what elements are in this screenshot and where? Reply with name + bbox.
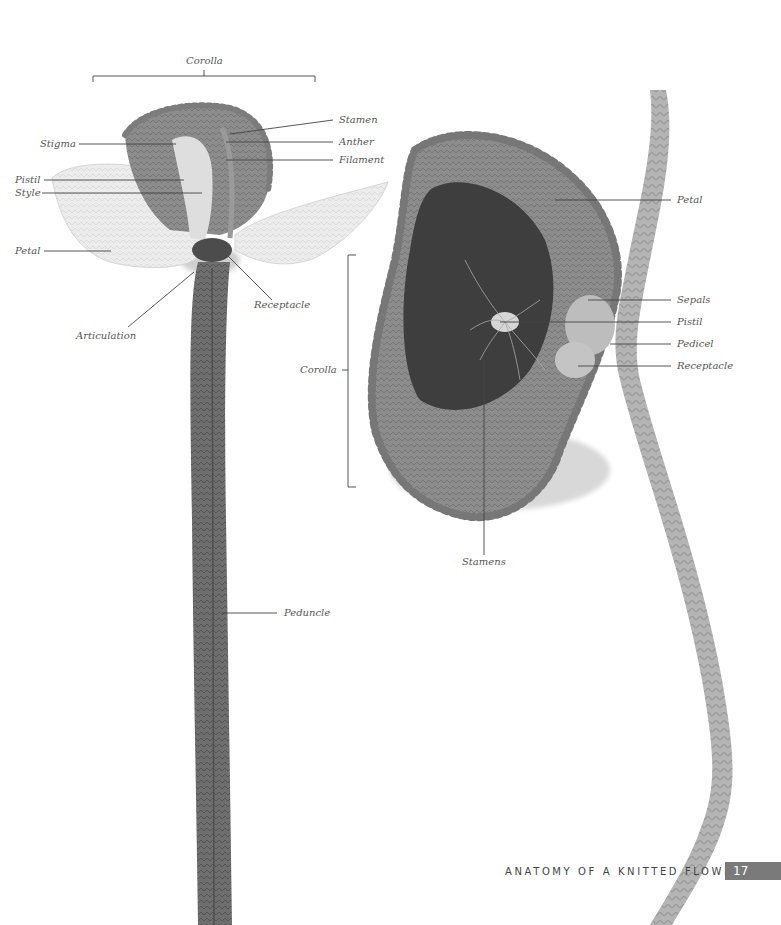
pistil-label: Pistil [15, 174, 40, 186]
stigma-label: Stigma [40, 138, 76, 150]
right-corolla-label: Corolla [300, 364, 337, 376]
right-pistil-label: Pistil [677, 316, 702, 328]
left-receptacle-label: Receptacle [254, 299, 310, 311]
articulation-label: Articulation [76, 330, 136, 342]
right-flower-drawing [372, 90, 733, 925]
style-label: Style [15, 187, 41, 199]
left-flower-drawing [52, 105, 388, 925]
knitted-flower-anatomy-page: Corolla Stamen Anther Filament Stigma Pi… [0, 0, 781, 925]
anther-label: Anther [339, 136, 374, 148]
right-petal-label: Petal [677, 194, 702, 206]
pedicel-label: Pedicel [677, 338, 714, 350]
flower-illustration [0, 0, 781, 925]
right-receptacle-label: Receptacle [677, 360, 733, 372]
page-footer-title: ANATOMY OF A KNITTED FLOWER [505, 866, 743, 878]
left-corolla-label: Corolla [186, 55, 223, 67]
page-number-tab: 17 [725, 862, 781, 880]
peduncle-label: Peduncle [284, 607, 330, 619]
filament-label: Filament [339, 154, 384, 166]
sepals-label: Sepals [677, 294, 710, 306]
stamen-label: Stamen [339, 114, 378, 126]
stamens-label: Stamens [462, 556, 506, 568]
left-petal-label: Petal [15, 245, 40, 257]
